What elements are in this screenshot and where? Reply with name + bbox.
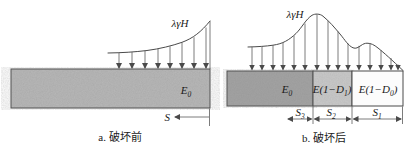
figure-canvas: λγH E0 S a. 破坏前 λγH E0 E(1−D1) E(1−D0) [0, 0, 409, 151]
caption-b: b. 破坏后 [302, 131, 346, 144]
caption-a: a. 破坏前 [98, 130, 141, 143]
panel-a: λγH E0 S a. 破坏前 [11, 17, 210, 143]
failure-diagram-figure: λγH E0 S a. 破坏前 λγH E0 E(1−D1) E(1−D0) [0, 0, 409, 151]
load-arrows-b [252, 14, 398, 69]
span-label-s3: S3 [295, 106, 305, 121]
panel-b: λγH E0 E(1−D1) E(1−D0) S3 S2 S1 b. 破坏后 [227, 8, 403, 144]
span-label-s2: S2 [326, 106, 336, 121]
load-curve-a [108, 21, 210, 53]
load-curve-b [248, 14, 403, 70]
beam-segment-e0-texture [228, 72, 313, 106]
load-label-a: λγH [170, 17, 189, 29]
span-label-s1: S1 [372, 106, 381, 121]
span-label-a: S [165, 111, 171, 123]
load-label-b: λγH [285, 8, 304, 20]
